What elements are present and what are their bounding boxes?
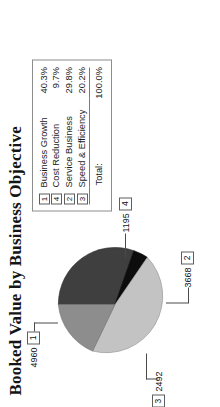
chart-figure: Booked Value by Business Objective 1 Bus… — [0, 0, 220, 407]
legend-row[interactable]: 3 Speed & Efficiency 20.2% — [76, 67, 89, 204]
pie-chart — [56, 245, 174, 363]
callout-value: 2492 — [154, 371, 164, 391]
legend-row[interactable]: 2 Service Business 29.8% — [64, 67, 77, 204]
callout-leader-3 — [146, 353, 147, 379]
legend-total-row: Total: 100.0% — [91, 67, 106, 204]
legend-key-cell: 2 — [64, 187, 77, 204]
callout-cost-reduction: 1195 4 — [119, 197, 132, 232]
callout-key-badge: 4 — [119, 197, 132, 210]
callout-leader-4 — [125, 233, 126, 257]
legend-total-label: Total: — [91, 98, 106, 187]
callout-key-badge: 3 — [152, 394, 165, 407]
callout-key-badge: 2 — [181, 251, 194, 264]
callout-value: 4960 — [29, 347, 39, 367]
legend-percent: 29.8% — [64, 67, 77, 99]
pie-chart-area: 4960 1 1195 4 3668 2 2492 3 — [0, 207, 220, 407]
legend-key-cell: 4 — [51, 187, 64, 204]
callout-service-business: 3668 2 — [181, 251, 194, 287]
legend-percent: 9.7% — [51, 67, 64, 99]
callout-leader-2b — [188, 287, 189, 303]
callout-speed-efficiency: 2492 3 — [152, 371, 165, 407]
legend-label: Business Growth — [38, 98, 51, 187]
callout-leader-1 — [34, 322, 58, 323]
legend-row[interactable]: 1 Business Growth 40.3% — [38, 67, 51, 204]
legend-label: Service Business — [64, 98, 77, 187]
legend-label: Cost Reduction — [51, 98, 64, 187]
legend-key-badge: 4 — [51, 193, 62, 204]
legend-table: 1 Business Growth 40.3% 4 Cost Reduction… — [38, 67, 106, 204]
legend-key-cell: 1 — [38, 187, 51, 204]
callout-value: 1195 — [121, 213, 131, 232]
legend-row[interactable]: 4 Cost Reduction 9.7% — [51, 67, 64, 204]
legend-key-badge: 2 — [64, 193, 75, 204]
legend-key-cell: 3 — [76, 187, 89, 204]
callout-leader-2 — [166, 302, 188, 303]
rotated-figure-wrapper: Booked Value by Business Objective 1 Bus… — [0, 0, 220, 407]
legend-percent: 40.3% — [38, 67, 51, 99]
legend-total-percent: 100.0% — [91, 67, 106, 99]
legend-label: Speed & Efficiency — [76, 98, 89, 187]
legend-percent: 20.2% — [76, 67, 89, 99]
callout-value: 3668 — [183, 267, 193, 287]
legend-key-badge: 3 — [77, 193, 88, 204]
legend-panel: 1 Business Growth 40.3% 4 Cost Reduction… — [32, 59, 112, 211]
legend-key-badge: 1 — [39, 193, 50, 204]
callout-key-badge: 1 — [27, 331, 40, 344]
callout-business-growth: 4960 1 — [27, 331, 40, 367]
